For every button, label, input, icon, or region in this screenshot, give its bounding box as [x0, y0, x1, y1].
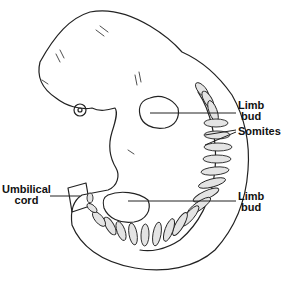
limb-bud-upper-label: Limb bud: [238, 100, 264, 122]
lower-limb-bud: [103, 192, 149, 222]
somites-row: [85, 81, 232, 247]
embryo-diagram: Limb bud Somites Umbilical cord Limb bud: [0, 0, 284, 281]
label-line: cord: [2, 195, 51, 206]
umbilical-cord-label: Umbilical cord: [2, 184, 51, 206]
limb-bud-lower-label: Limb bud: [238, 191, 264, 213]
label-line: bud: [238, 202, 264, 213]
embryo-illustration: [0, 0, 284, 281]
upper-limb-bud: [139, 96, 178, 128]
eye: [74, 104, 86, 116]
label-line: bud: [238, 111, 264, 122]
somites-label: Somites: [238, 126, 281, 137]
